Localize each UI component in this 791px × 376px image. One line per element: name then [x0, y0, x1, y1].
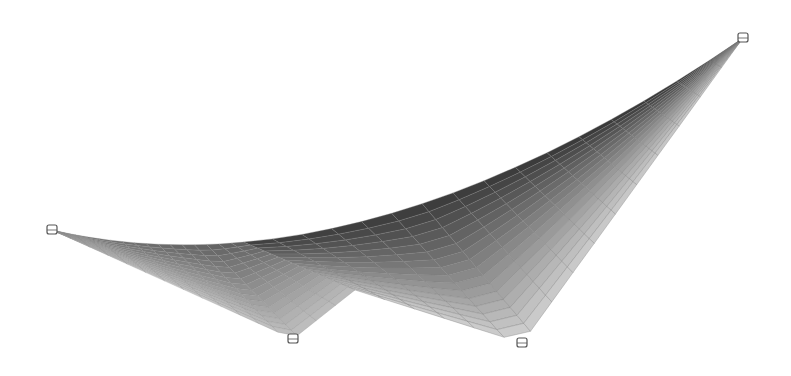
membrane-figure: [0, 0, 791, 376]
anchor-node-icon: [47, 225, 57, 234]
anchor-node-icon: [517, 338, 527, 347]
anchor-node-icon: [738, 33, 748, 42]
membrane-surface-drawing: [0, 0, 791, 376]
anchor-node-icon: [288, 334, 298, 343]
